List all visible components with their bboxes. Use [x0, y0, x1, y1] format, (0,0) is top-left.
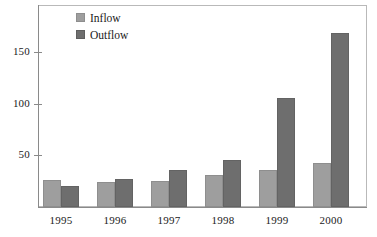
x-tick-label-2000: 2000 — [301, 214, 361, 226]
bar-group-1998 — [205, 6, 249, 207]
bar-chart: 50100150 199519961997199819992000 Inflow… — [0, 0, 377, 237]
bar-group-1997 — [151, 6, 195, 207]
bar-inflow-2000[interactable] — [313, 163, 331, 207]
legend-item-inflow: Inflow — [76, 11, 128, 24]
chart-legend: Inflow Outflow — [76, 11, 128, 41]
legend-item-outflow: Outflow — [76, 28, 128, 41]
bar-outflow-1998[interactable] — [223, 160, 241, 207]
bar-inflow-1998[interactable] — [205, 175, 223, 207]
x-tick-label-1995: 1995 — [31, 214, 91, 226]
y-tick-label-150: 150 — [0, 46, 30, 57]
bar-inflow-1995[interactable] — [43, 180, 61, 207]
y-tick-label-100: 100 — [0, 98, 30, 109]
bar-inflow-1997[interactable] — [151, 181, 169, 207]
bar-outflow-1995[interactable] — [61, 186, 79, 207]
bar-group-2000 — [313, 6, 357, 207]
bar-outflow-1999[interactable] — [277, 98, 295, 207]
legend-label-inflow: Inflow — [90, 12, 121, 24]
bar-outflow-1997[interactable] — [169, 170, 187, 207]
x-tick-label-1999: 1999 — [247, 214, 307, 226]
inflow-swatch-icon — [76, 13, 85, 22]
outflow-swatch-icon — [76, 30, 85, 39]
bar-inflow-1996[interactable] — [97, 182, 115, 207]
x-axis-line — [38, 207, 367, 208]
x-tick-label-1996: 1996 — [85, 214, 145, 226]
y-tick-label-50: 50 — [0, 149, 30, 160]
x-tick-label-1997: 1997 — [139, 214, 199, 226]
legend-label-outflow: Outflow — [90, 29, 128, 41]
bar-outflow-1996[interactable] — [115, 179, 133, 207]
bar-outflow-2000[interactable] — [331, 33, 349, 207]
bar-group-1999 — [259, 6, 303, 207]
bar-inflow-1999[interactable] — [259, 170, 277, 207]
x-tick-label-1998: 1998 — [193, 214, 253, 226]
